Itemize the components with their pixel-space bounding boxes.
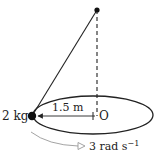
- angular-velocity-text: 3 rad s: [89, 140, 128, 153]
- pivot-point: [94, 7, 99, 12]
- conical-pendulum-diagram: 2 kg 1.5 m O 3 rad s−1: [0, 0, 154, 156]
- rotation-arrowhead-icon: [78, 143, 85, 150]
- angular-velocity-exponent: −1: [128, 139, 140, 148]
- center-label: O: [99, 109, 109, 123]
- angular-velocity-label: 3 rad s−1: [89, 139, 139, 153]
- rotation-arrow: [31, 132, 78, 146]
- mass-label: 2 kg: [2, 109, 29, 123]
- radius-label: 1.5 m: [52, 101, 84, 114]
- mass-bob: [28, 112, 36, 120]
